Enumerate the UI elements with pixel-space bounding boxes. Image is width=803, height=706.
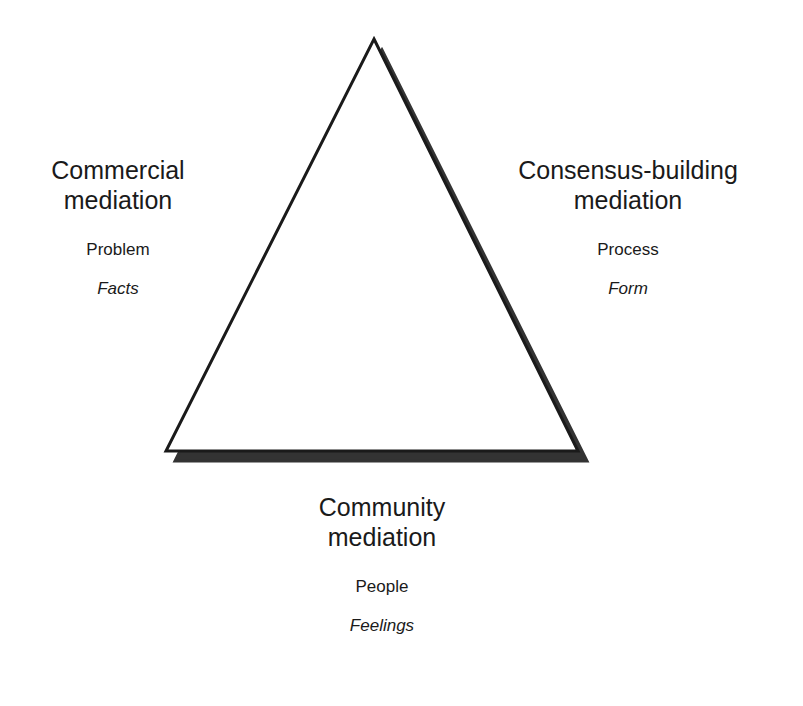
corner-title: Community mediation [277,492,487,552]
corner-emphasis: Feelings [277,616,487,636]
corner-emphasis: Facts [18,279,218,299]
corner-label-consensus-building: Consensus-building mediation Process For… [468,155,788,299]
title-line-2: mediation [18,185,218,215]
corner-title: Consensus-building mediation [468,155,788,215]
mediation-triangle-diagram: Commercial mediation Problem Facts Conse… [0,0,803,706]
corner-label-community: Community mediation People Feelings [277,492,487,636]
corner-title: Commercial mediation [18,155,218,215]
title-line-2: mediation [277,522,487,552]
corner-focus: People [277,577,487,597]
corner-focus: Problem [18,240,218,260]
corner-label-commercial: Commercial mediation Problem Facts [18,155,218,299]
title-line-1: Community [277,492,487,522]
title-line-2: mediation [468,185,788,215]
corner-emphasis: Form [468,279,788,299]
title-line-1: Consensus-building [468,155,788,185]
title-line-1: Commercial [18,155,218,185]
corner-focus: Process [468,240,788,260]
